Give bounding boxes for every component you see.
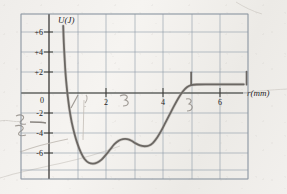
graph-axes [21, 14, 243, 179]
y-axis-label: U(J) [58, 15, 75, 25]
curve-vertical-markers [191, 72, 246, 85]
x-tick-4: 4 [161, 98, 165, 107]
y-tick-plus2: +2 [34, 68, 43, 77]
y-tick-zero: 0 [40, 96, 44, 105]
x-axis-label: r(mm) [247, 88, 270, 98]
x-tick-6: 6 [218, 98, 222, 107]
scan-artifacts [0, 2, 287, 178]
potential-energy-graph-figure: +6 +4 +2 0 -2 -4 -6 2 4 6 U(J) r(mm) [0, 0, 287, 194]
y-tick-minus2: -2 [36, 109, 43, 118]
graph-gridlines [21, 14, 248, 179]
y-tick-plus4: +4 [34, 48, 43, 57]
y-tick-plus6: +6 [34, 28, 43, 37]
y-tick-minus4: -4 [36, 129, 43, 138]
x-tick-2: 2 [104, 98, 108, 107]
y-tick-minus6: -6 [36, 149, 43, 158]
figure-frame [21, 14, 248, 179]
x-axis-tick-labels: 2 4 6 [104, 98, 222, 107]
potential-energy-curve [63, 26, 244, 164]
